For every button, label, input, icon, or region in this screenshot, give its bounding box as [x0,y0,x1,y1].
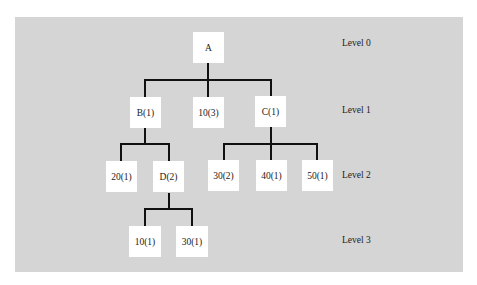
level-label-3: Level 3 [342,235,371,245]
node-label: 50(1) [307,171,328,181]
node-10-1: 10(1) [129,226,161,257]
node-50-1: 50(1) [302,160,333,191]
edge-d-bar [144,208,193,210]
node-30-2: 30(2) [208,160,239,191]
node-10-3: 10(3) [193,97,224,128]
node-label: B(1) [137,108,154,118]
edge-c-40-1 [270,143,272,160]
edge-c-50-1 [316,143,318,160]
node-label: C(1) [262,107,279,117]
node-label: 30(2) [213,171,234,181]
edge-a-10-3 [207,79,209,97]
node-40-1: 40(1) [256,160,287,191]
node-label: 40(1) [261,171,282,181]
node-30-1: 30(1) [176,226,208,257]
node-label: D(2) [160,172,178,182]
node-b: B(1) [130,97,161,128]
node-c: C(1) [255,96,286,127]
node-label: 10(3) [198,108,219,118]
edge-d-10-1 [144,208,146,226]
node-label: 30(1) [182,237,203,247]
level-label-0: Level 0 [342,38,371,48]
node-20-1: 20(1) [106,161,137,192]
edge-d-30-1 [191,208,193,226]
level-label-1: Level 1 [342,105,371,115]
edge-c-30-2 [223,143,225,160]
edge-b-bar [120,143,170,145]
edge-b-d [168,143,170,161]
node-a: A [193,32,224,63]
edge-a-c [270,79,272,96]
node-d: D(2) [153,161,184,192]
node-label: 10(1) [135,237,156,247]
edge-a-b [144,79,146,97]
node-label: A [205,43,212,53]
node-label: 20(1) [111,172,132,182]
level-label-2: Level 2 [342,170,371,180]
edge-b-20-1 [120,143,122,161]
